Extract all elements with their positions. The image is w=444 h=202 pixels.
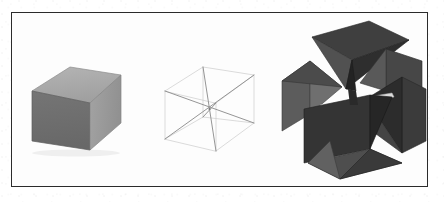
cube-shadow	[32, 150, 120, 157]
wireframe-cube-canvas	[153, 13, 283, 186]
figure-frame-border	[11, 12, 428, 187]
panel-wireframe-cube	[153, 13, 283, 186]
exploded-pyramids-canvas	[274, 13, 429, 186]
panel-solid-cube	[18, 13, 153, 186]
exploded-pyramids-svg	[274, 13, 429, 186]
solid-cube-canvas	[18, 13, 153, 186]
solid-cube-svg	[18, 13, 153, 186]
space-diagonal-3	[165, 75, 254, 139]
figure-page	[0, 0, 444, 202]
panel-exploded-pyramids	[274, 13, 429, 186]
cube-centre-point	[208, 108, 210, 110]
wireframe-cube-svg	[153, 13, 283, 186]
pyramid-right-base	[402, 77, 426, 153]
